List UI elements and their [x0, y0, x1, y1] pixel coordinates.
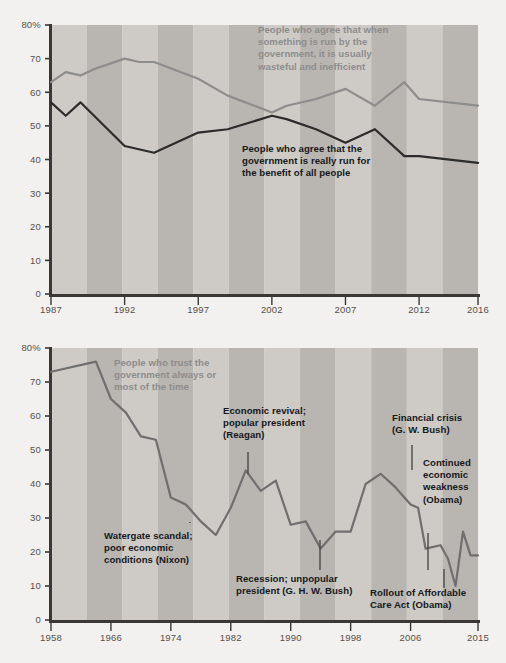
- annotation-line: Care Act (Obama): [370, 599, 451, 610]
- annotation-line: People who trust the: [114, 357, 209, 368]
- annotation-line: (Reagan): [223, 429, 264, 440]
- annotation-line: People who agree that the: [242, 143, 362, 154]
- y-tick-label: 70: [30, 376, 41, 387]
- annotation-line: (Obama): [423, 494, 462, 505]
- annotation-line: (G. W. Bush): [392, 424, 450, 435]
- x-tick-label: 2002: [261, 304, 283, 315]
- background-band: [51, 348, 87, 620]
- chart-bottom-svg: 01020304050607080%1958196619741982199019…: [0, 330, 506, 663]
- annotation-line: Rollout of Affordable: [370, 587, 466, 598]
- annotation-line: weakness: [422, 481, 469, 492]
- annotation-line: something is run by the: [258, 36, 367, 47]
- background-band: [193, 25, 229, 294]
- chart-trust-in-government: 01020304050607080%1958196619741982199019…: [0, 330, 506, 663]
- x-tick-label: 1982: [220, 632, 242, 643]
- annotation-line: Economic revival;: [223, 405, 306, 416]
- annotation-line: government, it is usually: [258, 48, 372, 59]
- y-tick-label: 50: [30, 120, 41, 131]
- y-tick-label: 0: [36, 288, 41, 299]
- y-tick-label: 40: [30, 154, 41, 165]
- annotation-line: poor economic: [104, 542, 174, 553]
- annotation-line: Watergate scandal;: [104, 530, 193, 541]
- annotation-line: Continued: [423, 457, 471, 468]
- y-tick-label: 60: [30, 87, 41, 98]
- background-band: [371, 348, 407, 620]
- x-axis: 1987199219972002200720122016: [40, 297, 489, 315]
- x-tick-label: 1958: [40, 632, 62, 643]
- y-tick-label: 20: [30, 221, 41, 232]
- y-tick-label: 30: [30, 188, 41, 199]
- chart-top-svg: 01020304050607080%1987199219972002200720…: [0, 0, 506, 330]
- recession-ghw-bush-label: Recession; unpopularpresident (G. H. W. …: [236, 573, 352, 596]
- x-axis: 19581966197419821990199820062015: [40, 623, 489, 643]
- annotation-line: president (G. H. W. Bush): [236, 585, 352, 596]
- background-band: [122, 25, 158, 294]
- annotation-line: Recession; unpopular: [236, 573, 338, 584]
- y-tick-label: 10: [30, 255, 41, 266]
- annotation-line: wasteful and inefficient: [257, 61, 366, 72]
- x-tick-label: 1997: [187, 304, 209, 315]
- x-tick-label: 1974: [160, 632, 182, 643]
- background-band: [51, 25, 87, 294]
- y-tick-label: 30: [30, 512, 41, 523]
- annotation-line: People who agree that when: [258, 24, 388, 35]
- chart-government-wasteful-benefit: 01020304050607080%1987199219972002200720…: [0, 0, 506, 330]
- annotation-line: most of the time: [114, 381, 189, 392]
- annotation-line: conditions (Nixon): [104, 554, 189, 565]
- y-tick-label: 20: [30, 546, 41, 557]
- y-axis: 01020304050607080%: [21, 19, 51, 299]
- x-tick-label: 1987: [40, 304, 62, 315]
- x-tick-label: 1966: [100, 632, 122, 643]
- y-tick-label: 60: [30, 410, 41, 421]
- annotation-line: government is really run for: [242, 155, 370, 166]
- infographic-page: 01020304050607080%1987199219972002200720…: [0, 0, 506, 663]
- annotation-line: the benefit of all people: [242, 167, 350, 178]
- annotation-line: government always or: [114, 369, 217, 380]
- x-tick-label: 2006: [400, 632, 422, 643]
- x-tick-label: 2016: [467, 304, 489, 315]
- annotation-line: Financial crisis: [392, 412, 462, 423]
- y-tick-label: 40: [30, 478, 41, 489]
- y-tick-label: 0: [36, 614, 41, 625]
- background-band: [371, 25, 407, 294]
- y-tick-label: 80%: [21, 19, 41, 30]
- x-tick-label: 2015: [467, 632, 489, 643]
- background-band: [407, 25, 443, 294]
- x-tick-label: 2012: [408, 304, 430, 315]
- y-tick-label: 70: [30, 53, 41, 64]
- x-tick-label: 2007: [335, 304, 357, 315]
- y-axis: 01020304050607080%: [21, 342, 51, 625]
- y-tick-label: 10: [30, 580, 41, 591]
- x-tick-label: 1998: [340, 632, 362, 643]
- background-band: [193, 348, 229, 620]
- x-tick-label: 1992: [114, 304, 136, 315]
- annotation-line: economic: [423, 469, 469, 480]
- x-tick-label: 1990: [280, 632, 302, 643]
- annotation-line: popular president: [223, 417, 306, 428]
- y-tick-label: 50: [30, 444, 41, 455]
- y-tick-label: 80%: [21, 342, 41, 353]
